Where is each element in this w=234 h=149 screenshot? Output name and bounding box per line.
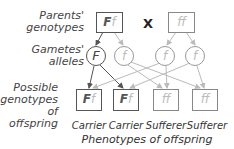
offspring-genotypes-label: Possible genotypes of offspring — [0, 82, 58, 130]
allele-text: f — [163, 49, 167, 63]
gamete-circle-recessive: f — [155, 46, 175, 66]
allele-text: F — [92, 48, 99, 63]
offspring-box: Ff — [76, 89, 102, 111]
recessive-allele: f — [91, 92, 95, 106]
dominant-allele: F — [83, 92, 91, 106]
offspring-box: Ff — [113, 89, 139, 111]
recessive-allele: f — [128, 92, 132, 106]
gametes-alleles-label: Gametes' alleles — [14, 44, 84, 68]
gamete-circle-recessive: f — [114, 46, 134, 66]
phenotype-label: Sufferer — [146, 120, 186, 131]
parent-box-ff-homozygous: ff — [168, 12, 195, 33]
offspring-box: ff — [153, 89, 179, 111]
dominant-allele: F — [120, 92, 128, 106]
gamete-circle-dominant: F — [86, 46, 106, 66]
parent-box-ff-heterozygous: Ff — [96, 12, 123, 33]
allele-text: f — [122, 49, 126, 63]
label-line: of offspring — [0, 106, 58, 130]
phenotype-label: Sufferer — [187, 120, 227, 131]
phenotypes-title: Phenotypes of offspring — [0, 133, 234, 146]
recessive-allele: ff — [177, 15, 186, 29]
offspring-box: ff — [192, 89, 218, 111]
allele-text: f — [193, 49, 197, 63]
phenotype-label: Carrier — [72, 120, 106, 131]
label-line: alleles — [14, 56, 84, 68]
recessive-allele: ff — [162, 92, 171, 106]
recessive-allele: f — [111, 15, 115, 29]
phenotype-label: Carrier — [109, 120, 143, 131]
parents-genotypes-label: Parents' genotypes — [14, 10, 84, 34]
cross-symbol: X — [143, 16, 153, 31]
recessive-allele: ff — [201, 92, 210, 106]
label-line: genotypes — [14, 22, 84, 34]
gamete-circle-recessive: f — [185, 46, 205, 66]
